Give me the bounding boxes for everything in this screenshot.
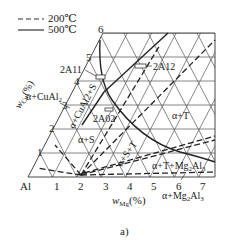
alloy-box-2a02 <box>105 108 113 111</box>
region-alpha-cual2: α+CuAl2 <box>26 91 62 106</box>
y-tick-2: 2 <box>49 123 55 134</box>
alloy-label-2a12: 2A12 <box>153 61 175 72</box>
figure-caption: a) <box>120 226 129 237</box>
alloy-label-2a02: 2A02 <box>93 113 115 124</box>
x-tick-5: 5 <box>151 181 157 192</box>
y-tick-5: 5 <box>86 52 92 63</box>
y-tick-6: 6 <box>98 24 104 35</box>
region-alpha-t: α+T <box>172 110 189 121</box>
legend-label-500c: 500℃ <box>48 24 77 35</box>
region-alpha-s: α+S <box>78 134 94 145</box>
x-tick-3: 3 <box>103 181 109 192</box>
y-tick-1: 1 <box>37 147 43 158</box>
origin-label: Al <box>20 181 31 192</box>
x-tick-2: 2 <box>78 181 84 192</box>
y-tick-4: 4 <box>74 76 80 87</box>
x-tick-1: 1 <box>54 181 60 192</box>
x-axis-label: wMg(%) <box>112 195 146 210</box>
alloy-box-2a11 <box>96 75 105 79</box>
y-tick-3: 3 <box>62 100 68 111</box>
alloy-label-2a11: 2A11 <box>60 64 82 75</box>
region-alpha-mg2al3: α+Mg2Al3 <box>162 190 204 205</box>
x-tick-4: 4 <box>127 181 133 192</box>
alloy-box-2a12 <box>135 64 146 68</box>
boundaries-500c <box>82 33 215 162</box>
region-alpha-t-mg2al3: α+T+Mg2Al3 <box>152 160 206 175</box>
